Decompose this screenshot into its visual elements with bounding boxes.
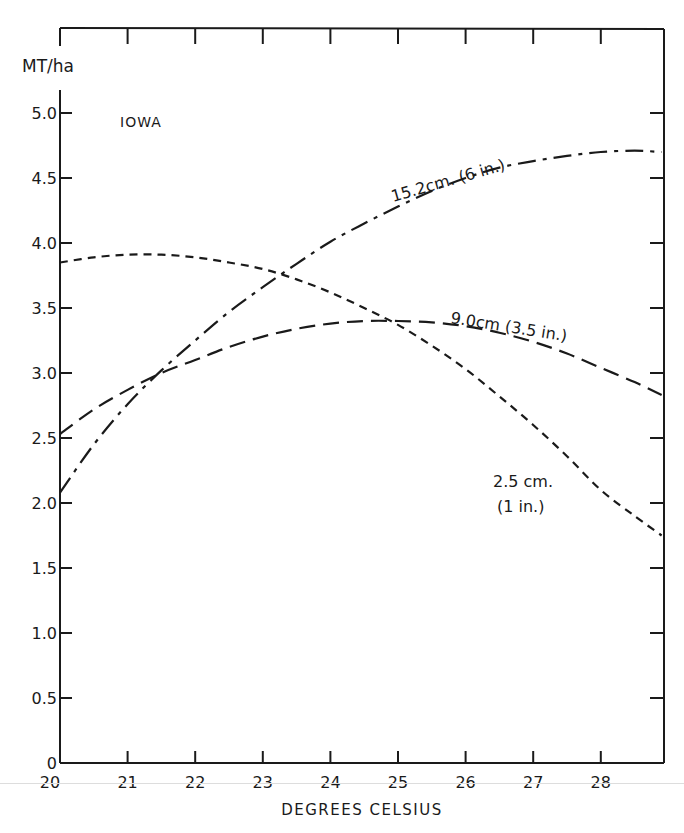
y-tick-label: 4.5: [32, 169, 57, 188]
y-tick-label: 4.0: [32, 234, 57, 253]
x-axis-ticks: 202122232425262728: [40, 28, 611, 792]
y-tick-label: 1.0: [32, 624, 57, 643]
series-label-15cm: 15.2cm. (6 in.): [389, 155, 507, 206]
series-label-2-5cm-inches: (1 in.): [497, 497, 544, 516]
y-tick-label: 0.5: [32, 689, 57, 708]
y-tick-label: 3.5: [32, 299, 57, 318]
y-tick-label: 1.5: [32, 559, 57, 578]
yield-temperature-chart: 202122232425262728 00.51.01.52.02.53.03.…: [0, 0, 684, 833]
region-label: IOWA: [120, 114, 162, 130]
x-axis-title: DEGREES CELSIUS: [281, 801, 443, 819]
series-lines: [60, 151, 662, 536]
y-axis-ticks: 00.51.01.52.02.53.03.54.04.55.0: [32, 104, 664, 773]
series-label-9cm: 9.0cm (3.5 in.): [449, 308, 568, 345]
y-tick-label: 0: [47, 754, 57, 773]
y-tick-label: 2.5: [32, 429, 57, 448]
y-tick-label: 2.0: [32, 494, 57, 513]
plot-frame: [60, 28, 664, 763]
y-tick-label: 3.0: [32, 364, 57, 383]
y-tick-label: 5.0: [32, 104, 57, 123]
scan-edge-line: [0, 783, 684, 784]
series-line-1: [60, 321, 662, 434]
series-line-2: [60, 254, 662, 535]
y-axis-unit-label: MT/ha: [22, 56, 74, 76]
series-label-2-5cm: 2.5 cm.: [493, 472, 553, 491]
